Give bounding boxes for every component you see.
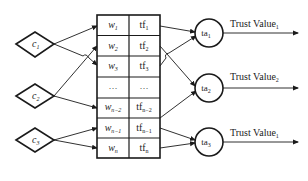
trust-value-label: Trust Value1 [230, 18, 279, 30]
trust-value-label: Trust Value2 [230, 71, 279, 83]
edge-tfn-ta3 [160, 143, 195, 148]
edge-tfn1-ta3 [160, 128, 195, 140]
weight-table: w1 tf1 w2 tf2 w3 tf3 … … wn−2 tfn−2 wn−1… [97, 15, 160, 158]
input-edges [54, 26, 97, 148]
edge-tf1-ta1 [160, 26, 195, 32]
edge-c1-w3 [54, 44, 97, 65]
edge-tf3-ta1 [160, 36, 196, 66]
input-node-c1: c1 [16, 32, 54, 57]
edge-c3-wn1 [54, 128, 97, 140]
input-node-c3: c3 [16, 128, 54, 152]
aggregator-ta3: ta3 [195, 128, 223, 156]
edge-c2-wn2 [54, 96, 97, 108]
svg-text:…: … [140, 81, 149, 91]
input-node-c2: c2 [16, 84, 54, 108]
trust-value-label: Trust Value1 [230, 127, 279, 139]
aggregator-edges [160, 26, 196, 148]
output-ta1: Trust Value1 [223, 18, 298, 33]
edge-tfn2-ta2 [160, 91, 196, 118]
edge-c2-w2 [54, 46, 97, 96]
aggregator-ta1: ta1 [195, 19, 223, 47]
svg-text:…: … [109, 81, 118, 91]
edge-c3-wn [54, 140, 97, 148]
trust-diagram: c1 c2 c3 w1 tf1 w2 tf2 w [0, 0, 308, 181]
edge-c1-w1 [54, 26, 97, 44]
edge-tf2-ta2 [160, 46, 195, 86]
output-ta2: Trust Value2 [223, 71, 298, 88]
output-ta3: Trust Value1 [223, 127, 298, 142]
aggregator-ta2: ta2 [195, 74, 223, 102]
